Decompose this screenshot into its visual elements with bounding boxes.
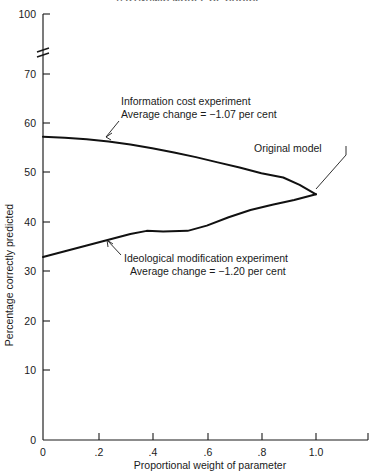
x-tick-labels: 0 .2 .4 .6 .8 1.0 [40,446,323,458]
y-tick-label: 0 [30,434,36,446]
x-tick-label: .4 [149,446,158,458]
y-tick-label: 100 [18,8,36,20]
x-axis-ticks [99,433,368,440]
annotation-information-cost: Information cost experiment Average chan… [106,95,277,140]
y-tick-label: 60 [24,117,36,129]
x-tick-label: 0 [40,446,46,458]
annotation-original-model: Original model [254,142,346,189]
y-tick-label: 40 [24,216,36,228]
x-tick-label: .2 [95,446,104,458]
x-tick-label: .8 [258,446,267,458]
annotation-line-1: Information cost experiment [121,95,251,107]
x-tick-label: .6 [204,446,213,458]
x-tick-label: 1.0 [309,446,324,458]
y-tick-labels: 100 70 60 50 40 30 20 10 0 [18,8,36,446]
y-tick-label: 30 [24,265,36,277]
x-axis-title: Proportional weight of parameter [134,459,287,471]
y-axis-ticks [43,14,50,370]
y-tick-label: 50 [24,166,36,178]
annotation-line-1: Ideological modification experiment [124,252,288,264]
annotation-line-1: Original model [254,142,322,154]
annotation-ideological-modification: Ideological modification experiment Aver… [107,240,288,277]
annotation-line-2: Average change = −1.07 per cent [121,108,277,120]
figure-container: A DYNAMIC MODEL OF CHOICE [0,0,378,472]
series-line-ideological-modification [43,194,316,257]
annotation-line-2: Average change = −1.20 per cent [130,265,286,277]
y-tick-label: 10 [24,364,36,376]
y-tick-label: 20 [24,315,36,327]
line-chart: 100 70 60 50 40 30 20 10 0 0 .2 .4 .6 .8… [0,0,378,472]
y-axis-title: Percentage correctly predicted [3,204,15,347]
y-tick-label: 70 [24,68,36,80]
